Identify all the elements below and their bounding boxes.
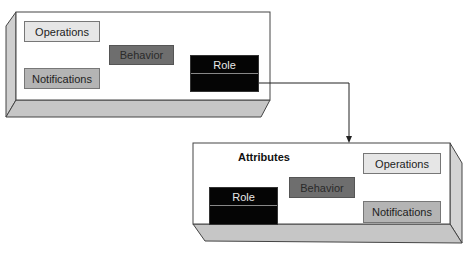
connector-arrow <box>259 83 352 143</box>
target-role-box: Role <box>209 187 278 225</box>
target-box-bottom-side <box>193 224 462 243</box>
source-notifications-box: Notifications <box>24 68 100 89</box>
target-attributes-heading: Attributes <box>238 151 290 163</box>
arrowhead-icon <box>346 136 352 143</box>
source-behavior-box: Behavior <box>109 45 174 65</box>
source-role-label: Role <box>191 56 258 74</box>
source-box-bottom-side <box>6 100 270 117</box>
source-role-box: Role <box>190 55 259 92</box>
target-notifications-box: Notifications <box>363 201 441 223</box>
target-operations-box: Operations <box>363 153 441 174</box>
target-role-label: Role <box>210 188 277 206</box>
source-operations-box: Operations <box>24 21 100 42</box>
target-behavior-box: Behavior <box>289 177 355 198</box>
source-box-left-side <box>6 12 16 117</box>
